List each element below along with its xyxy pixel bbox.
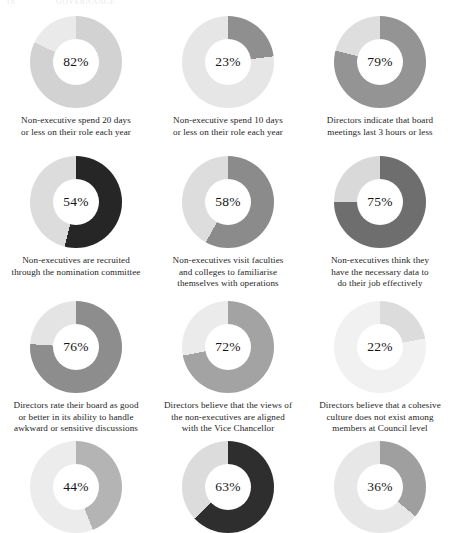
donut-ring: 36%	[334, 441, 426, 533]
caption-line: or less on their role each year	[3, 127, 149, 139]
donut-value-label: 75%	[367, 195, 392, 209]
donut-chart: 44%	[30, 441, 122, 533]
caption-line: Non-executive spend 20 days	[3, 115, 149, 127]
donut-value-label: 22%	[367, 340, 392, 354]
caption-line: culture does not exist among	[307, 412, 453, 424]
donut-value-label: 82%	[63, 55, 88, 69]
donut-cell: 44%Chairs effectively deal withnon-perfo…	[0, 435, 152, 531]
donut-value-label: 76%	[63, 340, 88, 354]
donut-ring: 22%	[334, 301, 426, 393]
caption-line: or better in its ability to handle	[3, 412, 149, 424]
donut-hole: 22%	[357, 324, 403, 370]
donut-hole: 54%	[53, 179, 99, 225]
caption-line: Non-executives visit faculties	[155, 255, 301, 267]
caption-line: Directors believe that a cohesive	[307, 400, 453, 412]
caption-line: and colleges to familiarise	[155, 267, 301, 279]
donut-cell: 76%Directors rate their board as goodor …	[0, 295, 152, 435]
header-title: GOVERNANCE	[56, 0, 115, 6]
donut-cell: 82%Non-executive spend 20 daysor less on…	[0, 10, 152, 150]
donut-hole: 72%	[205, 324, 251, 370]
donut-ring: 75%	[334, 156, 426, 248]
donut-value-label: 58%	[215, 195, 240, 209]
donut-hole: 82%	[53, 39, 99, 85]
donut-value-label: 36%	[367, 480, 392, 494]
donut-chart: 54%	[30, 156, 122, 248]
caption-line: awkward or sensitive discussions	[3, 423, 149, 435]
donut-chart: 23%	[182, 16, 274, 108]
donut-ring: 79%	[334, 16, 426, 108]
caption-line: Non-executives are recruited	[3, 255, 149, 267]
donut-caption: Directors rate their board as goodor bet…	[3, 400, 149, 435]
donut-hole: 76%	[53, 324, 99, 370]
donut-ring: 44%	[30, 441, 122, 533]
donut-caption: Non-executive spend 10 daysor less on th…	[155, 115, 301, 138]
donut-ring: 76%	[30, 301, 122, 393]
donut-caption: Directors believe that the views ofthe n…	[155, 400, 301, 435]
donut-chart: 36%	[334, 441, 426, 533]
donut-cell: 36%Directors say that theCouncil is risk…	[304, 435, 456, 531]
donut-ring: 54%	[30, 156, 122, 248]
donut-ring: 72%	[182, 301, 274, 393]
donut-cell: 63%Chairs have effective relationswith e…	[152, 435, 304, 531]
donut-caption: Directors believe that a cohesiveculture…	[307, 400, 453, 435]
donut-chart: 82%	[30, 16, 122, 108]
donut-hole: 63%	[205, 464, 251, 510]
donut-value-label: 23%	[215, 55, 240, 69]
caption-line: Directors believe that the views of	[155, 400, 301, 412]
donut-cell: 58%Non-executives visit facultiesand col…	[152, 150, 304, 295]
caption-line: through the nomination committee	[3, 267, 149, 279]
donut-hole: 36%	[357, 464, 403, 510]
caption-line: Directors rate their board as good	[3, 400, 149, 412]
donut-ring: 23%	[182, 16, 274, 108]
caption-line: have the necessary data to	[307, 267, 453, 279]
donut-ring: 58%	[182, 156, 274, 248]
donut-caption: Non-executives think theyhave the necess…	[307, 255, 453, 290]
caption-line: Non-executives think they	[307, 255, 453, 267]
caption-line: the non-executives are aligned	[155, 412, 301, 424]
caption-line: Directors indicate that board	[307, 115, 453, 127]
donut-cell: 23%Non-executive spend 10 daysor less on…	[152, 10, 304, 150]
caption-line: or less on their role each year	[155, 127, 301, 139]
donut-cell: 75%Non-executives think theyhave the nec…	[304, 150, 456, 295]
donut-value-label: 72%	[215, 340, 240, 354]
donut-cell: 72%Directors believe that the views ofth…	[152, 295, 304, 435]
caption-line: meetings last 3 hours or less	[307, 127, 453, 139]
donut-chart-grid: 82%Non-executive spend 20 daysor less on…	[0, 10, 456, 531]
donut-value-label: 79%	[367, 55, 392, 69]
donut-chart: 75%	[334, 156, 426, 248]
donut-cell: 79%Directors indicate that boardmeetings…	[304, 10, 456, 150]
caption-line: members at Council level	[307, 423, 453, 435]
donut-chart: 76%	[30, 301, 122, 393]
caption-line: do their job effectively	[307, 278, 453, 290]
caption-line: with the Vice Chancellor	[155, 423, 301, 435]
donut-caption: Non-executive spend 20 daysor less on th…	[3, 115, 149, 138]
donut-cell: 54%Non-executives are recruitedthrough t…	[0, 150, 152, 295]
donut-chart: 72%	[182, 301, 274, 393]
caption-line: themselves with operations	[155, 278, 301, 290]
donut-hole: 44%	[53, 464, 99, 510]
donut-caption: Directors indicate that boardmeetings la…	[307, 115, 453, 138]
caption-line: Non-executive spend 10 days	[155, 115, 301, 127]
donut-value-label: 54%	[63, 195, 88, 209]
donut-caption: Non-executives visit facultiesand colleg…	[155, 255, 301, 290]
donut-ring: 63%	[182, 441, 274, 533]
donut-chart: 79%	[334, 16, 426, 108]
donut-caption: Non-executives are recruitedthrough the …	[3, 255, 149, 278]
donut-value-label: 63%	[215, 480, 240, 494]
donut-cell: 22%Directors believe that a cohesivecult…	[304, 295, 456, 435]
donut-ring: 82%	[30, 16, 122, 108]
donut-chart: 63%	[182, 441, 274, 533]
donut-chart: 22%	[334, 301, 426, 393]
donut-hole: 79%	[357, 39, 403, 85]
donut-value-label: 44%	[63, 480, 88, 494]
donut-hole: 23%	[205, 39, 251, 85]
donut-hole: 75%	[357, 179, 403, 225]
donut-chart: 58%	[182, 156, 274, 248]
page-number: 18	[6, 0, 15, 6]
donut-hole: 58%	[205, 179, 251, 225]
running-header: 18 GOVERNANCE	[0, 0, 456, 9]
